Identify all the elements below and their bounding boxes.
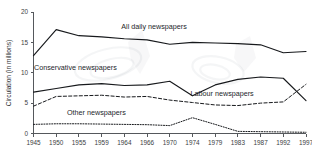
series-line-other-newspapers bbox=[34, 118, 307, 133]
chart-figure: 05101520 1945195019551959196419661970197… bbox=[0, 0, 312, 159]
x-tick-label: 1983 bbox=[231, 139, 246, 146]
x-tick-label: 1964 bbox=[117, 139, 132, 146]
y-tick-label: 10 bbox=[21, 69, 29, 76]
x-tick-label: 1970 bbox=[163, 139, 178, 146]
x-axis-ticks: 1945195019551959196419661970197419791983… bbox=[26, 134, 312, 146]
watermark-decoration bbox=[71, 30, 256, 88]
x-tick-label: 1966 bbox=[140, 139, 155, 146]
series-line-all-daily-newspapers bbox=[34, 30, 307, 56]
x-tick-label: 1959 bbox=[95, 139, 110, 146]
series-annotations: All daily newspapersConservative newspap… bbox=[34, 22, 254, 117]
x-tick-label: 1950 bbox=[49, 139, 64, 146]
series-line-conservative-newspapers bbox=[34, 77, 307, 101]
series-line-labour-newspapers bbox=[34, 84, 307, 106]
series-annotation-label: Conservative newspapers bbox=[34, 63, 117, 72]
x-tick-label: 1979 bbox=[208, 139, 223, 146]
x-tick-label: 1987 bbox=[253, 139, 268, 146]
y-tick-label: 0 bbox=[24, 130, 28, 137]
x-tick-label: 1992 bbox=[276, 139, 291, 146]
y-tick-label: 5 bbox=[24, 99, 28, 106]
y-tick-label: 15 bbox=[21, 39, 29, 46]
series-annotation-label: All daily newspapers bbox=[121, 22, 187, 31]
series-annotation-label: Other newspapers bbox=[67, 108, 126, 117]
x-tick-label: 1997 bbox=[299, 139, 312, 146]
x-tick-label: 1945 bbox=[26, 139, 41, 146]
newspaper-circulation-line-chart: 05101520 1945195019551959196419661970197… bbox=[0, 0, 312, 159]
y-axis-ticks: 05101520 bbox=[21, 8, 34, 137]
x-tick-label: 1974 bbox=[185, 139, 200, 146]
y-axis-title: Circulation (in millions) bbox=[5, 40, 13, 106]
y-tick-label: 20 bbox=[21, 8, 29, 15]
series-annotation-label: Labour newspapers bbox=[191, 89, 255, 98]
x-tick-label: 1955 bbox=[72, 139, 87, 146]
